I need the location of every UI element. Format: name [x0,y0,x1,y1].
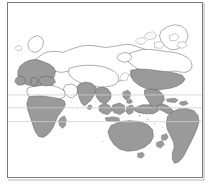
frame-drop-shadow-right [203,3,205,180]
island-pacific-5 [154,123,155,124]
island-indian-2 [71,101,72,102]
region-java [105,117,120,122]
island-pacific-1 [156,99,158,101]
island-indian-1 [77,109,78,110]
map-frame: .land-hi { fill: #9a9a9a; stroke: #5a5a5… [7,2,203,178]
island-pacific-6 [162,127,163,128]
island-pacific-9 [95,101,96,102]
island-pacific-7 [126,132,127,133]
island-pacific-10 [179,135,180,136]
world-map-graphic: .land-hi { fill: #9a9a9a; stroke: #5a5a5… [8,3,202,177]
island-pacific-8 [102,141,103,142]
island-pacific-4 [147,119,148,120]
frame-drop-shadow-bottom [8,179,204,181]
island-pacific-3 [139,115,141,117]
island-pacific-2 [169,118,170,119]
figure-root: .land-hi { fill: #9a9a9a; stroke: #5a5a5… [0,0,211,190]
island-atlantic-1 [15,96,16,97]
